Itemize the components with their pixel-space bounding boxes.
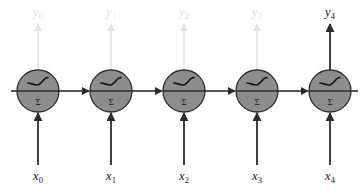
input-label-4: x4 <box>324 169 336 185</box>
output-label-1: y1 <box>104 5 116 21</box>
node-sum-symbol: Σ <box>108 97 113 107</box>
output-label-2: y2 <box>177 5 189 21</box>
output-label-3: y3 <box>250 5 262 21</box>
output-lines-group <box>38 24 330 70</box>
neuron-node-4[interactable]: Σ <box>309 70 351 112</box>
input-label-2: x2 <box>178 169 189 185</box>
neuron-node-2[interactable]: Σ <box>163 70 205 112</box>
input-label-0: x0 <box>32 169 43 185</box>
output-label-4: y4 <box>323 5 336 21</box>
neuron-node-0[interactable]: Σ <box>17 70 59 112</box>
rnn-diagram: Σ Σ Σ Σ Σ y0 <box>0 0 364 192</box>
input-label-1: x1 <box>105 169 116 185</box>
neuron-node-3[interactable]: Σ <box>236 70 278 112</box>
output-labels-group: y0 y1 y2 y3 y4 <box>31 5 336 21</box>
node-sum-symbol: Σ <box>327 97 332 107</box>
node-sum-symbol: Σ <box>254 97 259 107</box>
node-sum-symbol: Σ <box>35 97 40 107</box>
neuron-node-1[interactable]: Σ <box>90 70 132 112</box>
input-lines-group <box>38 113 330 165</box>
input-label-3: x3 <box>251 169 262 185</box>
input-labels-group: x0 x1 x2 x3 x4 <box>32 169 336 185</box>
node-sum-symbol: Σ <box>181 97 186 107</box>
output-label-0: y0 <box>31 5 43 21</box>
rnn-diagram-canvas: Σ Σ Σ Σ Σ y0 <box>0 0 364 192</box>
